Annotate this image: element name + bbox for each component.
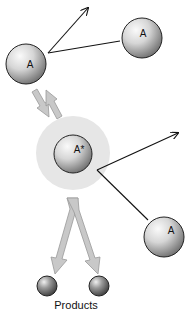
molecule-a-star: A* [54,135,92,173]
product-molecule [37,276,57,296]
scatter-arrow-icon [48,8,88,53]
molecule-a-top-right: A [122,18,162,58]
molecule-label: A [27,59,34,70]
product-molecule [89,276,109,296]
molecule-a-left: A [6,44,46,84]
molecule-a-bottom-right: A [144,217,184,257]
collision-line [48,41,120,53]
products-label: Products [54,299,98,311]
molecule-label: A [168,225,175,236]
collision-lines-top [48,8,120,53]
molecule-label: A [140,28,147,39]
fork-arrow-icon [51,198,100,274]
equilibrium-arrows-icon [32,89,62,119]
activation-diagram: A A A* A Products [0,0,189,313]
collision-line [97,170,148,220]
molecule-label: A* [74,144,85,155]
